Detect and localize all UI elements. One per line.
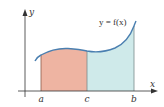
area-diagram: y x y = f(x) a c b: [0, 0, 164, 107]
right-region: [87, 26, 134, 91]
left-region: [41, 48, 87, 91]
y-axis-arrow-icon: [23, 9, 28, 16]
x-axis-label: x: [150, 79, 155, 89]
tick-label-a: a: [39, 94, 44, 104]
y-axis-label: y: [28, 7, 35, 17]
tick-label-c: c: [85, 94, 90, 104]
curve-label: y = f(x): [99, 17, 127, 27]
tick-label-b: b: [131, 94, 137, 104]
x-axis-arrow-icon: [151, 89, 158, 94]
